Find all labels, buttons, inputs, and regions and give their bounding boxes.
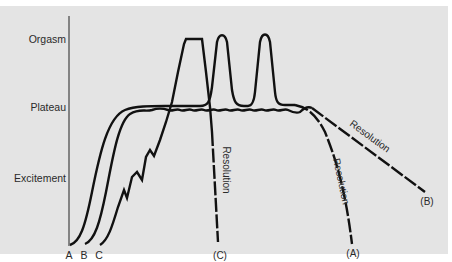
y-label-plateau: Plateau [30,101,66,113]
start-label-b: B [80,249,87,261]
start-label-a: A [65,249,72,261]
start-label-c: C [95,249,103,261]
y-label-orgasm: Orgasm [29,33,67,45]
resolution-label-b: Resolution [348,118,393,155]
resolution-label-c: Resolution [221,146,232,193]
diagram-canvas: Orgasm Plateau Excitement A B C Resoluti… [0,6,452,262]
end-label-c: (C) [213,250,227,261]
resolution-label-a: Resolution [331,157,352,206]
curve-b [85,107,425,244]
page-margin [448,0,452,262]
end-label-b: (B) [420,196,433,207]
end-label-a: (A) [346,248,359,259]
response-cycle-diagram: Orgasm Plateau Excitement A B C Resoluti… [0,6,448,254]
curve-a [70,35,352,246]
y-label-excitement: Excitement [14,172,66,184]
